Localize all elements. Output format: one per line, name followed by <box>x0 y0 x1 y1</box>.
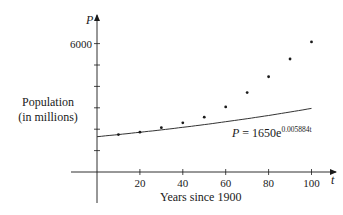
svg-text:80: 80 <box>263 177 275 189</box>
svg-text:60: 60 <box>220 177 232 189</box>
x-axis-symbol: t <box>331 173 335 187</box>
axes: Pt <box>71 13 336 203</box>
data-point <box>160 126 163 129</box>
data-point <box>310 40 313 43</box>
data-point <box>139 131 142 134</box>
data-point <box>246 91 249 94</box>
x-axis-label: Years since 1900 <box>160 190 241 205</box>
y-axis-label-line-2: (in millions) <box>6 110 90 125</box>
y-axis-label: Population (in millions) <box>6 95 90 125</box>
svg-text:6000: 6000 <box>70 38 93 50</box>
y-axis-symbol: P <box>85 13 94 27</box>
data-point <box>117 133 120 136</box>
data-point <box>267 75 270 78</box>
data-point <box>289 58 292 61</box>
data-points <box>117 40 313 135</box>
data-point <box>203 116 206 119</box>
svg-text:P = 1650e0.005884t: P = 1650e0.005884t <box>231 125 313 140</box>
svg-text:100: 100 <box>303 177 320 189</box>
equation-annotation: P = 1650e0.005884t <box>231 125 313 140</box>
data-point <box>181 121 184 124</box>
svg-text:20: 20 <box>134 177 146 189</box>
y-axis-label-line-1: Population <box>6 95 90 110</box>
data-point <box>224 106 227 109</box>
svg-text:40: 40 <box>177 177 189 189</box>
